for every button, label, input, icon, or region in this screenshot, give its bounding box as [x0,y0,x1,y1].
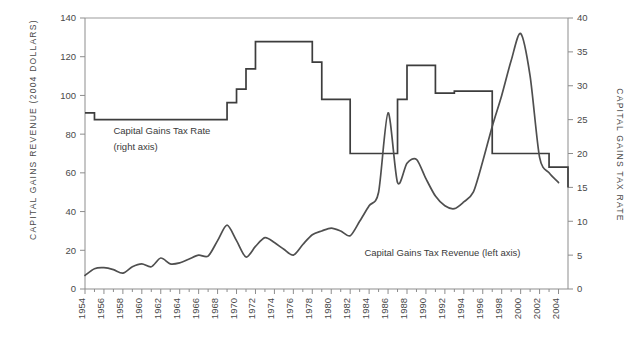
svg-text:1956: 1956 [95,298,106,319]
svg-text:1994: 1994 [455,298,466,319]
svg-text:1980: 1980 [322,298,333,319]
chart-plot-area: 020406080100120140 0510152025303540 1954… [0,0,637,337]
svg-text:1974: 1974 [265,298,276,319]
svg-text:1960: 1960 [133,298,144,319]
svg-text:1958: 1958 [114,298,125,319]
svg-text:10: 10 [577,216,588,227]
svg-text:1990: 1990 [417,298,428,319]
svg-text:1978: 1978 [303,298,314,319]
svg-text:2002: 2002 [531,298,542,319]
svg-text:20: 20 [577,148,588,159]
svg-text:1970: 1970 [228,298,239,319]
svg-text:2000: 2000 [512,298,523,319]
svg-text:1988: 1988 [398,298,409,319]
svg-text:40: 40 [65,206,76,217]
chart-annotations: Capital Gains Tax Rate(right axis)Capita… [113,125,520,258]
svg-text:25: 25 [577,114,588,125]
chart-figure: CAPITAL GAINS REVENUE (2004 DOLLARS) CAP… [0,0,637,337]
svg-text:60: 60 [65,167,76,178]
svg-text:1962: 1962 [152,298,163,319]
x-axis: 1954195619581960196219641966196819701972… [76,289,568,319]
svg-text:1964: 1964 [171,298,182,319]
svg-text:1996: 1996 [474,298,485,319]
svg-text:0: 0 [577,283,582,294]
svg-text:40: 40 [577,12,588,23]
annotation-1: (right axis) [113,141,157,152]
svg-text:80: 80 [65,129,76,140]
y-axis-right: 0510152025303540 [568,12,588,294]
svg-text:1982: 1982 [341,298,352,319]
svg-text:2004: 2004 [550,298,561,319]
svg-text:1968: 1968 [209,298,220,319]
svg-text:1966: 1966 [190,298,201,319]
svg-text:1976: 1976 [284,298,295,319]
svg-text:1992: 1992 [436,298,447,319]
svg-text:20: 20 [65,245,76,256]
svg-text:1986: 1986 [379,298,390,319]
svg-text:120: 120 [60,51,76,62]
svg-text:1954: 1954 [76,298,87,319]
annotation-2: Capital Gains Tax Revenue (left axis) [364,247,520,258]
svg-text:100: 100 [60,90,76,101]
svg-text:1972: 1972 [246,298,257,319]
annotation-0: Capital Gains Tax Rate [113,125,210,136]
y-axis-left: 020406080100120140 [60,12,85,294]
svg-text:5: 5 [577,250,582,261]
svg-text:1984: 1984 [360,298,371,319]
svg-text:35: 35 [577,46,588,57]
svg-text:15: 15 [577,182,588,193]
svg-text:1998: 1998 [493,298,504,319]
svg-text:30: 30 [577,80,588,91]
svg-text:0: 0 [71,283,76,294]
svg-text:140: 140 [60,12,76,23]
